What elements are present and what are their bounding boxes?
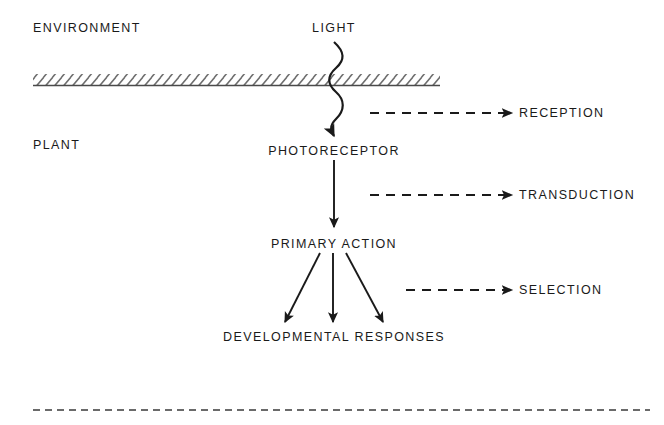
node-label-developmental-responses: DEVELOPMENTAL RESPONSES	[223, 331, 445, 344]
light-ray-wavy-arrow	[329, 42, 343, 136]
stage-label-selection: SELECTION	[519, 284, 602, 297]
primary-action-to-responses-arrow-right	[346, 253, 383, 322]
plant-surface-boundary	[33, 74, 440, 86]
region-label-plant: PLANT	[33, 139, 80, 152]
node-label-light: LIGHT	[312, 22, 356, 35]
node-label-primary-action: PRIMARY ACTION	[271, 238, 397, 251]
photomorphogenesis-flow-diagram: ENVIRONMENT PLANT LIGHT PHOTORECEPTOR PR…	[0, 0, 664, 425]
diagram-canvas	[0, 0, 664, 425]
node-label-photoreceptor: PHOTORECEPTOR	[268, 145, 400, 158]
region-label-environment: ENVIRONMENT	[33, 22, 141, 35]
primary-action-to-responses-arrow-left	[285, 253, 320, 322]
stage-label-transduction: TRANSDUCTION	[519, 189, 635, 202]
stage-label-reception: RECEPTION	[519, 107, 605, 120]
